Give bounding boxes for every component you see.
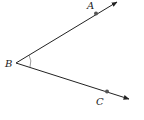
- point-a: [94, 12, 98, 16]
- angle-diagram: A B C: [0, 0, 144, 120]
- angle-arc: [29, 55, 31, 67]
- ray-bc: [16, 63, 129, 99]
- label-a: A: [86, 0, 94, 11]
- label-b: B: [4, 58, 12, 69]
- ray-ba: [16, 2, 117, 63]
- point-c: [105, 90, 109, 94]
- label-c: C: [96, 96, 104, 107]
